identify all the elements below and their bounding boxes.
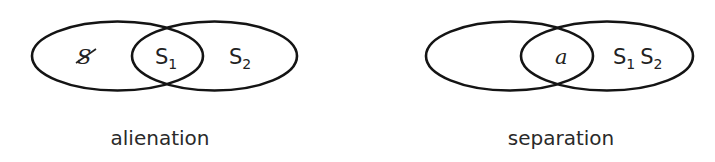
caption-separation: separation [508,126,614,150]
right-ellipse [521,22,693,91]
object-a-label: a [555,45,568,69]
left-ellipse [32,22,203,91]
right-set-label: S1S2 [613,45,663,72]
intersection-label: S1 [155,45,177,72]
caption-alienation: alienation [111,126,210,150]
alienation-diagram: S S1 S2 alienation [32,22,297,151]
separation-diagram: a S1S2 separation [426,22,693,151]
right-set-label: S2 [229,45,251,72]
left-ellipse [426,22,593,91]
barred-subject-symbol: S [76,45,96,69]
venn-diagrams: S S1 S2 alienation a S1S2 separation [0,0,715,162]
